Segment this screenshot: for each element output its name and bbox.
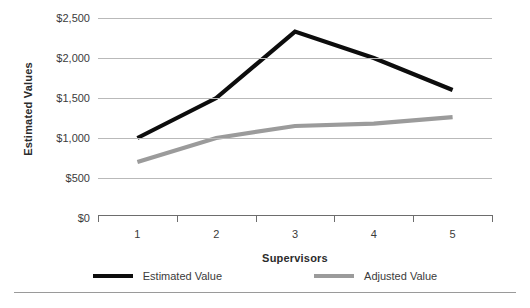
legend-label: Adjusted Value	[364, 270, 437, 282]
series-line	[137, 117, 452, 162]
y-axis-tick-label: $500	[28, 172, 90, 184]
x-axis-tick	[334, 215, 335, 222]
series-lines	[98, 18, 492, 218]
line-chart: Estimated Values $0$500$1,000$1,500$2,00…	[0, 0, 530, 308]
gridline	[98, 138, 492, 139]
x-axis-tick-label: 4	[354, 228, 394, 240]
chart-legend: Estimated ValueAdjusted Value	[0, 268, 530, 284]
bottom-divider	[14, 292, 516, 293]
x-axis-tick-label: 3	[275, 228, 315, 240]
gridline	[98, 18, 492, 19]
y-axis-tick-labels: $0$500$1,000$1,500$2,000$2,500	[28, 0, 90, 308]
legend-swatch-icon	[314, 274, 354, 278]
gridline	[98, 58, 492, 59]
y-axis-tick-label: $2,000	[28, 52, 90, 64]
gridline	[98, 98, 492, 99]
x-axis-title: Supervisors	[98, 252, 492, 264]
x-axis-tick	[177, 215, 178, 222]
legend-label: Estimated Value	[143, 270, 222, 282]
x-axis-tick	[256, 215, 257, 222]
x-axis-tick	[98, 215, 99, 222]
x-axis-tick	[413, 215, 414, 222]
x-axis-line	[98, 215, 492, 216]
x-axis-tick-label: 2	[196, 228, 236, 240]
x-axis-tick-label: 5	[433, 228, 473, 240]
gridline	[98, 178, 492, 179]
x-axis-tick	[492, 215, 493, 222]
legend-swatch-icon	[93, 274, 133, 278]
y-axis-tick-label: $1,500	[28, 92, 90, 104]
y-axis-tick-label: $0	[28, 212, 90, 224]
legend-item[interactable]: Adjusted Value	[314, 270, 437, 282]
plot-area	[98, 18, 492, 218]
y-axis-tick-label: $1,000	[28, 132, 90, 144]
x-axis-tick-label: 1	[117, 228, 157, 240]
legend-item[interactable]: Estimated Value	[93, 270, 222, 282]
y-axis-tick-label: $2,500	[28, 12, 90, 24]
